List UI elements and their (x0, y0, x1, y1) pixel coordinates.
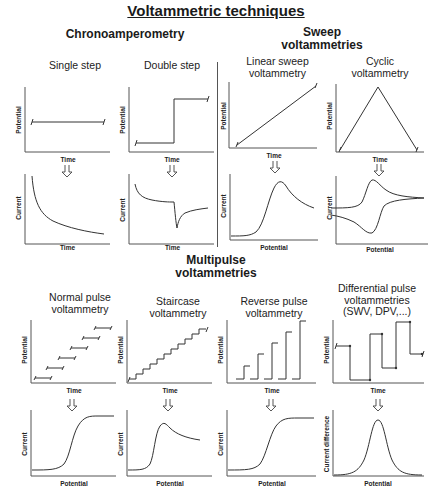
technique-normal-pulse: Normal pulse voltammetry (30, 292, 130, 315)
x-axis-label: Time (60, 244, 75, 251)
y-axis-label: Potential (326, 102, 333, 130)
page-title: Voltammetric techniques (0, 2, 432, 19)
y-axis-label: Potential (217, 336, 224, 364)
y-axis-label: Potential (323, 336, 330, 364)
differential-pulse-potential-plot: Potential Time (326, 316, 430, 396)
normal-pulse-current-plot: Current Potential (24, 408, 120, 490)
section-divider (217, 62, 218, 247)
sigmoid-trace (228, 418, 314, 470)
technique-cyclic: Cyclic voltammetry (330, 56, 430, 79)
axes (25, 87, 110, 152)
break-mark (315, 83, 317, 88)
pulse-segments (34, 326, 112, 380)
gaussian-peak-trace (334, 420, 422, 475)
x-axis-label: Time (162, 387, 177, 394)
x-axis-label: Time (370, 387, 385, 394)
x-axis-label: Time (165, 244, 180, 251)
staircase-current-plot: Current Potential (120, 408, 216, 490)
current-peak-trace (128, 423, 200, 470)
normal-pulse-potential-plot: Potential Time (24, 316, 120, 396)
technique-linear-sweep: Linear sweep voltammetry (230, 56, 325, 79)
axes (229, 82, 317, 148)
y-axis-label: Current (21, 431, 28, 455)
double-step-current-plot: Current (122, 172, 217, 247)
potential-triangle (340, 87, 417, 150)
technique-label-line1: Linear sweep (230, 56, 325, 68)
y-axis-label: Potential (21, 336, 28, 364)
technique-label-line2: voltammetry (30, 304, 130, 316)
y-axis-label: Potential (117, 336, 124, 364)
technique-label-line1: Differential pulse (324, 283, 430, 295)
x-axis-label: Time (266, 152, 281, 159)
potential-ramp (237, 86, 316, 145)
break-mark (206, 327, 208, 332)
cyclic-current-plot: Current Potential (328, 172, 432, 254)
x-axis-label: Potential (366, 246, 394, 253)
technique-label-line1: Staircase (128, 296, 228, 308)
section-chronoamperometry: Chronoamperometry (40, 28, 210, 41)
reverse-pulse-potential-plot: Potential Time (220, 316, 320, 396)
reverse-pulse-current-plot: Current Potential (220, 408, 320, 490)
axes (127, 410, 212, 476)
axes (31, 320, 116, 383)
x-axis-label: Potential (156, 480, 184, 487)
x-axis-label: Potential (60, 480, 88, 487)
section-sweep: Sweep voltammetries (262, 26, 382, 52)
current-decay-trace (32, 176, 104, 234)
y-axis-label: Current (220, 193, 227, 217)
technique-label-line2: voltammetry (230, 68, 325, 80)
y-axis-label: Current (119, 197, 126, 221)
x-axis-label: Time (60, 156, 75, 163)
cv-forward-trace (331, 180, 424, 208)
square-wave-trace (336, 322, 422, 380)
x-axis-label: Time (264, 387, 279, 394)
section-multipulse-line2: voltammetries (156, 267, 276, 280)
x-axis-label: Time (372, 156, 387, 163)
x-axis-label: Time (164, 156, 179, 163)
current-trace (135, 184, 208, 228)
axes (227, 410, 316, 476)
single-step-current-plot: Current (18, 172, 113, 247)
technique-double-step: Double step (122, 60, 222, 72)
axes (230, 174, 318, 240)
reverse-pulse-segments (236, 321, 306, 379)
axes (336, 84, 424, 152)
current-peak-trace (231, 182, 314, 236)
single-step-potential-plot: Potential Time (18, 84, 113, 166)
sigmoid-trace (32, 416, 114, 470)
differential-pulse-current-plot: Current difference Potential (326, 408, 430, 490)
y-axis-label: Current (117, 431, 124, 455)
cv-reverse-trace (331, 198, 424, 233)
potential-trace (136, 99, 208, 143)
y-axis-label: Potential (15, 106, 22, 134)
axes (31, 410, 116, 476)
linear-sweep-potential-plot: Potential Time (222, 80, 322, 162)
technique-label-line2: voltammetry (330, 68, 430, 80)
technique-label: Double step (122, 60, 222, 72)
section-sweep-line2: voltammetries (262, 39, 382, 52)
x-axis-label: Potential (260, 244, 288, 251)
y-axis-label: Current (217, 431, 224, 455)
section-multipulse: Multipulse voltammetries (156, 254, 276, 280)
technique-single-step: Single step (25, 60, 125, 72)
technique-label: Single step (25, 60, 125, 72)
axes (129, 87, 214, 152)
staircase-trace (129, 329, 206, 379)
x-axis-label: Potential (364, 480, 392, 487)
y-axis-label: Current difference (323, 415, 330, 472)
cyclic-potential-plot: Potential Time (328, 80, 428, 164)
y-axis-label: Potential (220, 102, 227, 130)
sample-points (349, 321, 423, 381)
double-step-potential-plot: Potential Time (122, 84, 217, 166)
x-axis-label: Time (66, 387, 81, 394)
y-axis-label: Potential (119, 106, 126, 134)
staircase-potential-plot: Potential Time (120, 316, 216, 396)
y-axis-label: Current (15, 195, 22, 219)
linear-sweep-current-plot: Current Potential (222, 170, 322, 252)
x-axis-label: Potential (258, 480, 286, 487)
technique-label-line1: Reverse pulse (224, 296, 324, 308)
technique-label-line1: Cyclic (330, 56, 430, 68)
technique-differential-pulse: Differential pulse voltammetries (SWV, D… (324, 283, 430, 318)
technique-label-line1: Normal pulse (30, 292, 130, 304)
